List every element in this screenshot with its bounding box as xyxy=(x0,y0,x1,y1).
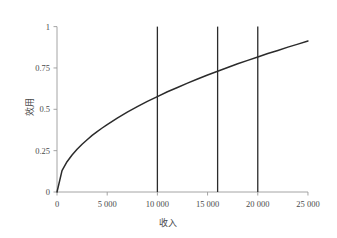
x-axis-title: 收入 xyxy=(159,219,177,228)
y-tick-label: 0.25 xyxy=(35,146,50,155)
y-tick-label: 0.5 xyxy=(39,105,50,114)
x-tick-label: 10 000 xyxy=(146,200,169,209)
y-axis-title: 效用 xyxy=(26,98,35,116)
x-tick-label: 0 xyxy=(55,200,59,209)
x-tick-label: 25 000 xyxy=(296,200,319,209)
x-tick-label: 15 000 xyxy=(196,200,219,209)
y-tick-label: 1 xyxy=(46,22,50,31)
utility-chart-figure: 05 00010 00015 00020 00025 00000.250.50.… xyxy=(0,0,337,238)
x-tick-label: 5 000 xyxy=(98,200,117,209)
x-tick-label: 20 000 xyxy=(246,200,269,209)
y-tick-label: 0.75 xyxy=(35,64,50,73)
y-tick-label: 0 xyxy=(46,188,50,197)
